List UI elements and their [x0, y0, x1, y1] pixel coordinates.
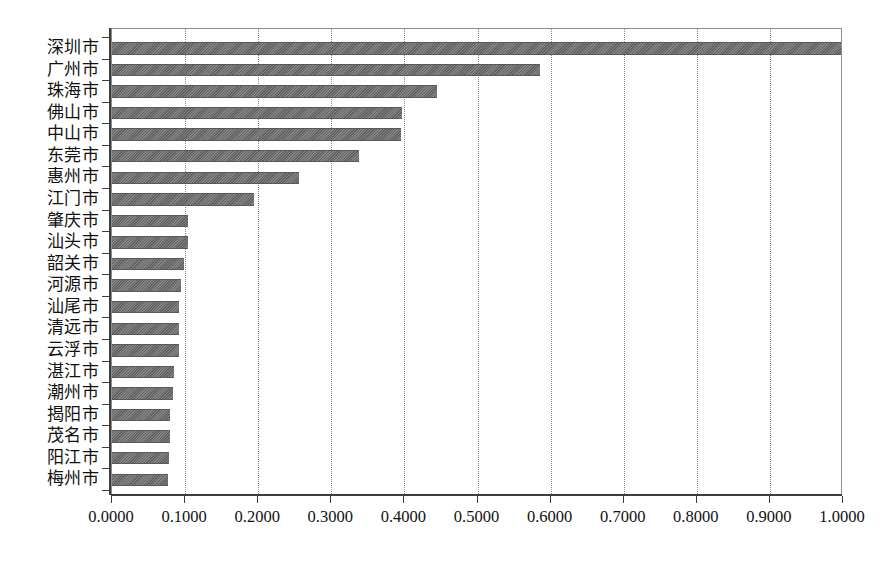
y-axis-label: 广州市: [47, 59, 100, 81]
bar-row[interactable]: [112, 167, 841, 189]
x-axis: [111, 494, 842, 496]
y-axis-label: 湛江市: [47, 361, 100, 383]
x-axis-tick: [550, 496, 551, 503]
bar[interactable]: [112, 150, 359, 162]
y-axis-label: 揭阳市: [47, 404, 100, 426]
bar[interactable]: [112, 452, 169, 464]
y-axis-label: 汕尾市: [47, 296, 100, 318]
x-axis-label: 0.2000: [235, 507, 280, 527]
x-axis-label: 0.0000: [88, 507, 133, 527]
x-axis-tick: [769, 496, 770, 503]
bar[interactable]: [112, 430, 170, 442]
bar[interactable]: [112, 474, 168, 486]
x-axis-tick: [330, 496, 331, 503]
x-axis-label: 0.4000: [381, 507, 426, 527]
bar[interactable]: [112, 64, 540, 76]
x-axis-tick: [111, 496, 112, 503]
x-axis-tick: [403, 496, 404, 503]
y-axis-label: 肇庆市: [47, 210, 100, 232]
y-axis-label: 佛山市: [47, 102, 100, 124]
x-axis-tick: [696, 496, 697, 503]
y-axis-label: 阳江市: [47, 447, 100, 469]
y-axis-tick-labels: 深圳市广州市珠海市佛山市中山市东莞市惠州市江门市肇庆市汕头市韶关市河源市汕尾市清…: [0, 28, 105, 495]
x-axis-tick: [184, 496, 185, 503]
y-axis-label: 梅州市: [47, 468, 100, 490]
y-axis-label: 云浮市: [47, 339, 100, 361]
y-axis-label: 潮州市: [47, 382, 100, 404]
x-axis-label: 0.8000: [673, 507, 718, 527]
bar-row[interactable]: [112, 405, 841, 427]
bar-row[interactable]: [112, 340, 841, 362]
x-axis-label: 0.9000: [746, 507, 791, 527]
bar[interactable]: [112, 323, 179, 335]
x-axis-label: 0.5000: [454, 507, 499, 527]
plot-area: [111, 28, 842, 495]
bar-row[interactable]: [112, 254, 841, 276]
x-axis-label: 0.3000: [308, 507, 353, 527]
bar-row[interactable]: [112, 81, 841, 103]
bar[interactable]: [112, 387, 173, 399]
x-axis-tick: [477, 496, 478, 503]
bar-row[interactable]: [112, 189, 841, 211]
bar[interactable]: [112, 344, 179, 356]
y-axis-label: 中山市: [47, 123, 100, 145]
bar[interactable]: [112, 301, 179, 313]
y-axis-label: 惠州市: [47, 166, 100, 188]
bar-row[interactable]: [112, 448, 841, 470]
x-axis-label: 0.7000: [600, 507, 645, 527]
x-axis-label: 0.1000: [161, 507, 206, 527]
bar-row[interactable]: [112, 469, 841, 491]
bar-row[interactable]: [112, 211, 841, 233]
bar[interactable]: [112, 128, 401, 140]
bar-row[interactable]: [112, 60, 841, 82]
y-axis: [109, 28, 111, 495]
y-axis-label: 江门市: [47, 188, 100, 210]
bar-row[interactable]: [112, 146, 841, 168]
bar-row[interactable]: [112, 426, 841, 448]
y-axis-label: 河源市: [47, 274, 100, 296]
y-axis-label: 韶关市: [47, 253, 100, 275]
bar-row[interactable]: [112, 38, 841, 60]
bar[interactable]: [112, 85, 437, 97]
bar-row[interactable]: [112, 103, 841, 125]
x-axis-tick: [623, 496, 624, 503]
bar[interactable]: [112, 236, 188, 248]
bar[interactable]: [112, 366, 174, 378]
y-axis-label: 茂名市: [47, 425, 100, 447]
x-axis-label: 0.6000: [527, 507, 572, 527]
bar[interactable]: [112, 279, 181, 291]
bar[interactable]: [112, 215, 188, 227]
bar-row[interactable]: [112, 318, 841, 340]
y-axis-label: 清远市: [47, 317, 100, 339]
y-axis-label: 深圳市: [47, 37, 100, 59]
bar[interactable]: [112, 42, 842, 54]
y-axis-label: 珠海市: [47, 80, 100, 102]
bar-row[interactable]: [112, 124, 841, 146]
bar-chart: 深圳市广州市珠海市佛山市中山市东莞市惠州市江门市肇庆市汕头市韶关市河源市汕尾市清…: [0, 0, 896, 563]
bar-row[interactable]: [112, 297, 841, 319]
bar-row[interactable]: [112, 275, 841, 297]
bar-row[interactable]: [112, 232, 841, 254]
y-axis-label: 东莞市: [47, 145, 100, 167]
bar-row[interactable]: [112, 362, 841, 384]
bar[interactable]: [112, 258, 184, 270]
bar[interactable]: [112, 193, 254, 205]
y-axis-label: 汕头市: [47, 231, 100, 253]
bar-row[interactable]: [112, 383, 841, 405]
bar[interactable]: [112, 409, 170, 421]
x-axis-tick: [257, 496, 258, 503]
x-axis-tick: [842, 496, 843, 503]
bar-series: [112, 29, 841, 494]
bar[interactable]: [112, 107, 402, 119]
bar[interactable]: [112, 172, 299, 184]
x-axis-label: 1.0000: [819, 507, 864, 527]
